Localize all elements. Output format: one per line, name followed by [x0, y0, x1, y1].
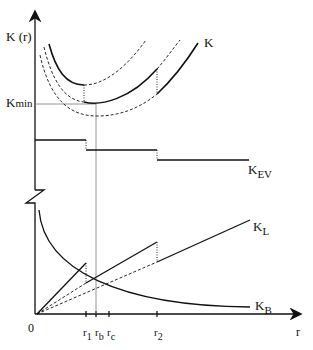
tick-rc: rc	[107, 327, 115, 338]
tick-sub: 1	[87, 331, 92, 342]
x-axis-label: r	[296, 326, 300, 338]
kl-main: K	[253, 219, 262, 234]
kmin-main: K	[6, 95, 15, 110]
kev-main: K	[248, 162, 257, 177]
kb-sub: B	[264, 304, 271, 316]
tick-rb: rb	[95, 327, 104, 338]
kev-step-line	[35, 140, 249, 160]
kmin-label: Kmin	[6, 96, 33, 109]
origin-label: 0	[28, 322, 34, 334]
kb-curve	[39, 210, 250, 307]
y-axis-label: K (r)	[6, 30, 32, 43]
k-curve-label: K	[204, 36, 213, 49]
kl-label: KL	[253, 220, 269, 233]
diagram-canvas: K (r) Kmin K KEV KL KB r 0 r1 rb rc r2	[0, 0, 313, 350]
kl-sub: L	[262, 225, 269, 237]
kb-main: K	[255, 298, 264, 313]
tick-sub: c	[111, 331, 115, 342]
kmin-sub: min	[15, 97, 32, 109]
kev-sub: EV	[257, 168, 272, 180]
kev-label: KEV	[248, 163, 272, 176]
tick-sub: b	[99, 331, 104, 342]
kb-label: KB	[255, 299, 272, 312]
k-curves	[40, 40, 198, 116]
kl-lines	[37, 220, 250, 314]
tick-sub: 2	[158, 331, 163, 342]
tick-r2: r2	[154, 327, 163, 338]
y-axis	[26, 12, 44, 314]
tick-r1: r1	[83, 327, 92, 338]
